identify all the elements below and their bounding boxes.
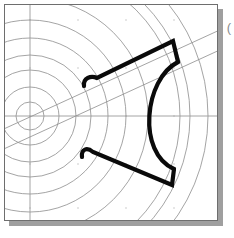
band-edge-lower — [5, 43, 217, 153]
screenshot-root: ( — [0, 0, 234, 238]
marginal-glyph: ( — [224, 19, 234, 37]
concentric-construction-arcs — [5, 5, 208, 220]
axis-lines — [5, 5, 217, 220]
drawing-viewport[interactable] — [4, 4, 218, 221]
drawing-svg[interactable] — [5, 5, 217, 220]
dot-grid — [29, 19, 174, 208]
